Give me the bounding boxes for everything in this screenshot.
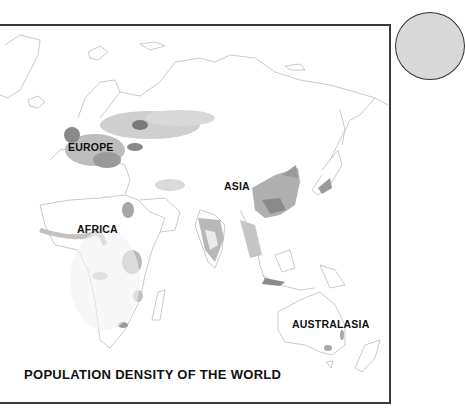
map-title: POPULATION DENSITY OF THE WORLD xyxy=(24,367,281,382)
region-label-africa: AFRICA xyxy=(77,223,118,235)
region-label-asia: ASIA xyxy=(224,180,250,192)
region-label-europe: EUROPE xyxy=(68,141,114,153)
region-label-australasia: AUSTRALASIA xyxy=(292,318,369,330)
